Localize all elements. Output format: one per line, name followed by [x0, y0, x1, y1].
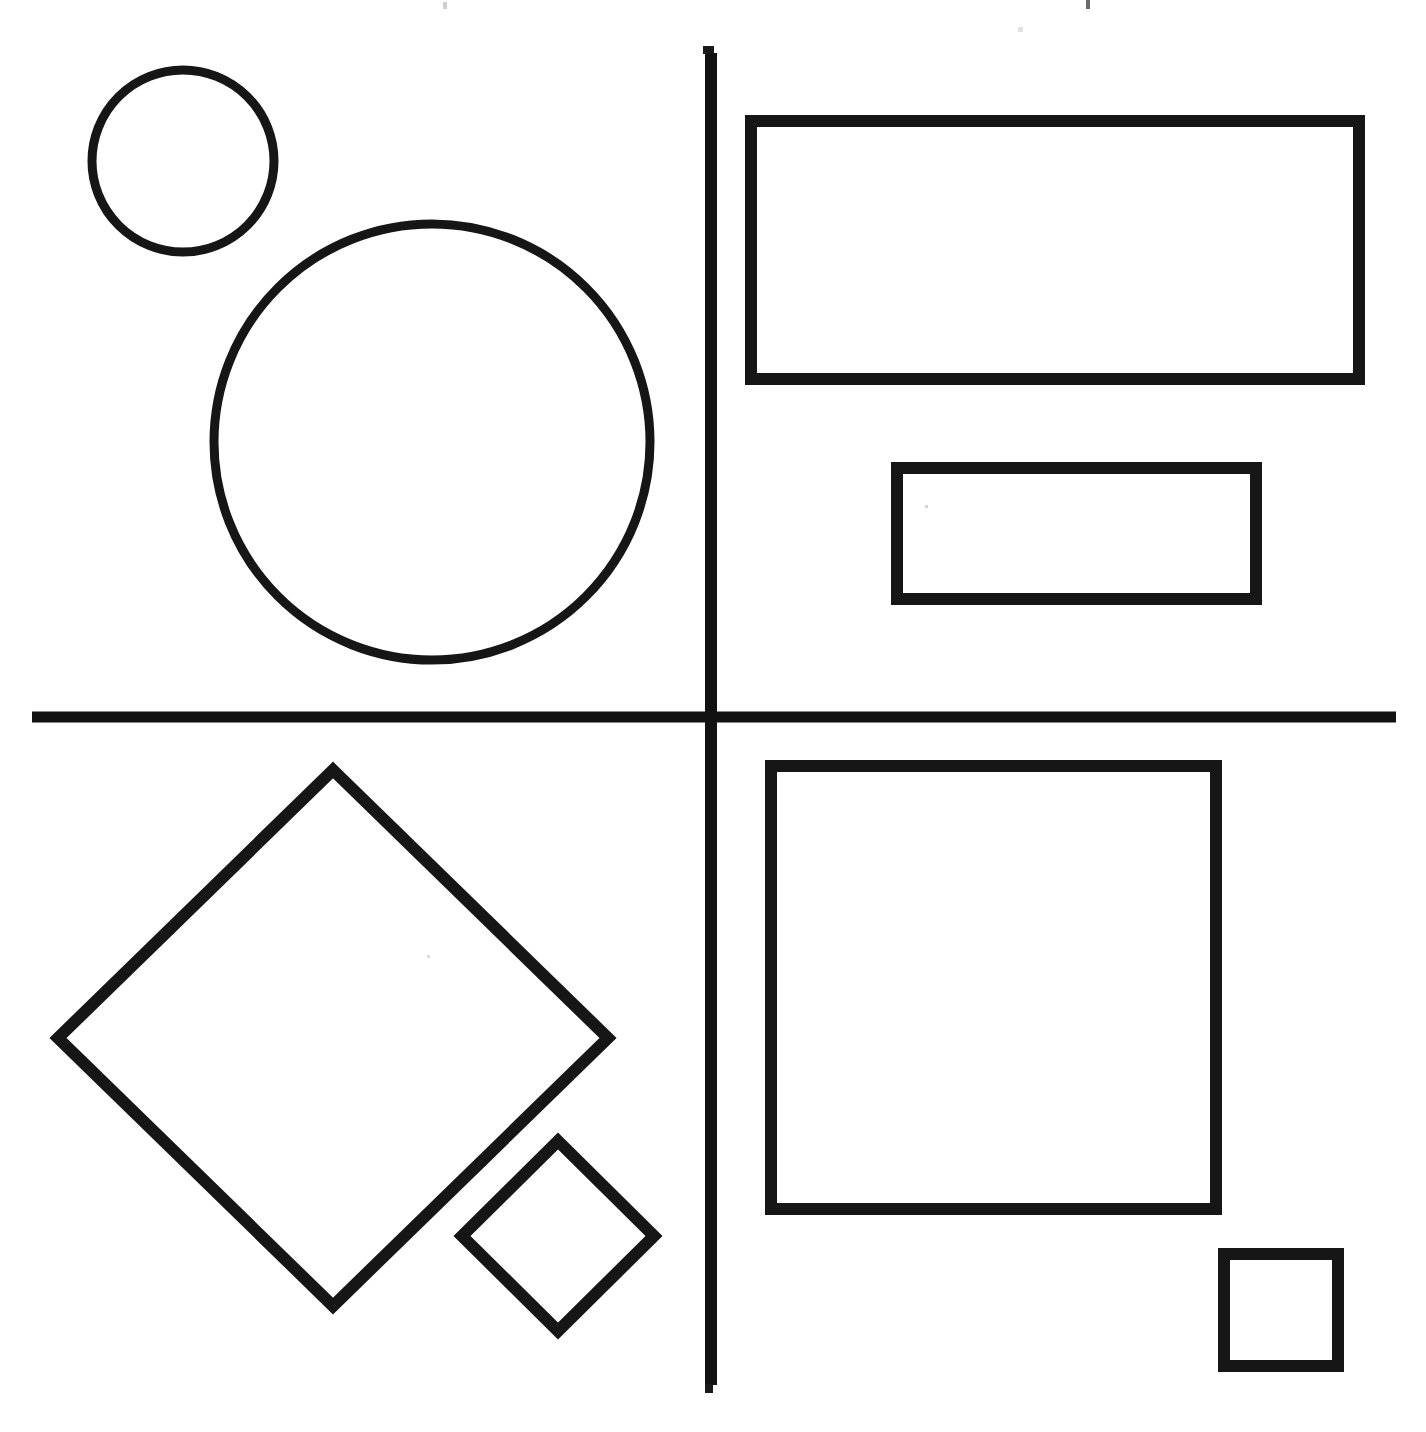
speck-diamond-interior	[427, 955, 430, 958]
speck-top-right	[1086, 0, 1090, 9]
speck-rect-interior	[925, 505, 928, 508]
speck-upper-right	[1018, 27, 1023, 32]
speck-bottom-center	[705, 1384, 713, 1393]
figure-canvas	[0, 0, 1426, 1432]
speck-top-left	[443, 2, 447, 9]
speck-top-center	[703, 46, 714, 54]
shapes-figure	[0, 0, 1426, 1432]
